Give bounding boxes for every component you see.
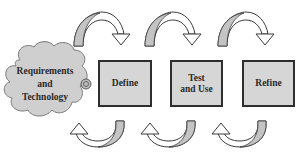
process-diagram: Requirements and Technology Define Test … xyxy=(0,0,307,158)
top-arrow-2 xyxy=(145,12,201,46)
requirements-technology-label: Requirements and Technology xyxy=(4,62,86,106)
refine-label: Refine xyxy=(242,60,295,107)
test-label-line-1: Test xyxy=(188,73,205,84)
test-and-use-label: Test and Use xyxy=(170,60,223,107)
refine-label-text: Refine xyxy=(255,78,281,89)
cloud-label-line-3: Technology xyxy=(22,91,68,104)
define-label: Define xyxy=(98,60,152,107)
test-label-line-2: and Use xyxy=(180,84,212,95)
define-label-text: Define xyxy=(112,78,138,89)
bottom-arrow-1 xyxy=(70,121,124,147)
bottom-arrow-2 xyxy=(141,121,195,147)
top-arrow-3 xyxy=(218,12,274,46)
cloud-label-line-2: and xyxy=(37,78,52,91)
cloud-label-line-1: Requirements xyxy=(17,65,74,78)
bottom-arrow-3 xyxy=(212,121,266,147)
top-arrow-1 xyxy=(74,12,130,46)
